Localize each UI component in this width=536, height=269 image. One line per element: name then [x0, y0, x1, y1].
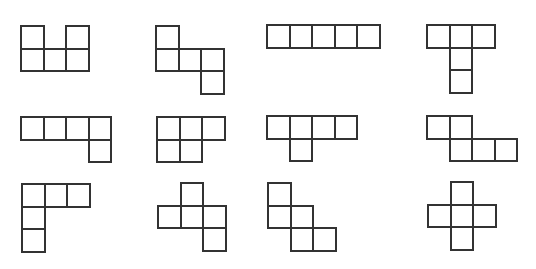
square-cell: [450, 204, 475, 229]
square-cell: [426, 115, 451, 140]
square-cell: [266, 24, 291, 49]
square-cell: [471, 138, 496, 163]
square-cell: [472, 204, 497, 229]
square-cell: [200, 48, 225, 73]
square-cell: [289, 138, 314, 163]
square-cell: [20, 25, 45, 50]
square-cell: [21, 228, 46, 253]
square-cell: [21, 183, 46, 208]
square-cell: [66, 183, 91, 208]
square-cell: [202, 205, 227, 230]
square-cell: [201, 116, 226, 141]
square-cell: [155, 25, 180, 50]
square-cell: [180, 182, 205, 207]
square-cell: [471, 24, 496, 49]
square-cell: [267, 205, 292, 230]
square-cell: [356, 24, 381, 49]
square-cell: [20, 116, 45, 141]
square-cell: [178, 48, 203, 73]
square-cell: [449, 47, 474, 72]
square-cell: [427, 204, 452, 229]
square-cell: [334, 115, 359, 140]
square-cell: [180, 205, 205, 230]
square-cell: [312, 227, 337, 252]
square-cell: [449, 24, 474, 49]
square-cell: [450, 181, 475, 206]
square-cell: [65, 25, 90, 50]
square-cell: [157, 205, 182, 230]
square-cell: [289, 115, 314, 140]
square-cell: [450, 226, 475, 251]
square-cell: [266, 115, 291, 140]
square-cell: [290, 205, 315, 230]
square-cell: [88, 139, 113, 164]
square-cell: [156, 139, 181, 164]
square-cell: [65, 116, 90, 141]
square-cell: [290, 227, 315, 252]
square-cell: [449, 115, 474, 140]
square-cell: [334, 24, 359, 49]
square-cell: [179, 139, 204, 164]
square-cell: [155, 48, 180, 73]
square-cell: [20, 48, 45, 73]
square-cell: [200, 70, 225, 95]
square-cell: [494, 138, 519, 163]
square-cell: [44, 183, 69, 208]
square-cell: [43, 48, 68, 73]
square-cell: [156, 116, 181, 141]
square-cell: [426, 24, 451, 49]
square-cell: [267, 182, 292, 207]
square-cell: [21, 206, 46, 231]
square-cell: [202, 227, 227, 252]
square-cell: [43, 116, 68, 141]
square-cell: [179, 116, 204, 141]
square-cell: [289, 24, 314, 49]
square-cell: [311, 24, 336, 49]
square-cell: [65, 48, 90, 73]
square-cell: [449, 138, 474, 163]
square-cell: [449, 69, 474, 94]
square-cell: [88, 116, 113, 141]
square-cell: [311, 115, 336, 140]
